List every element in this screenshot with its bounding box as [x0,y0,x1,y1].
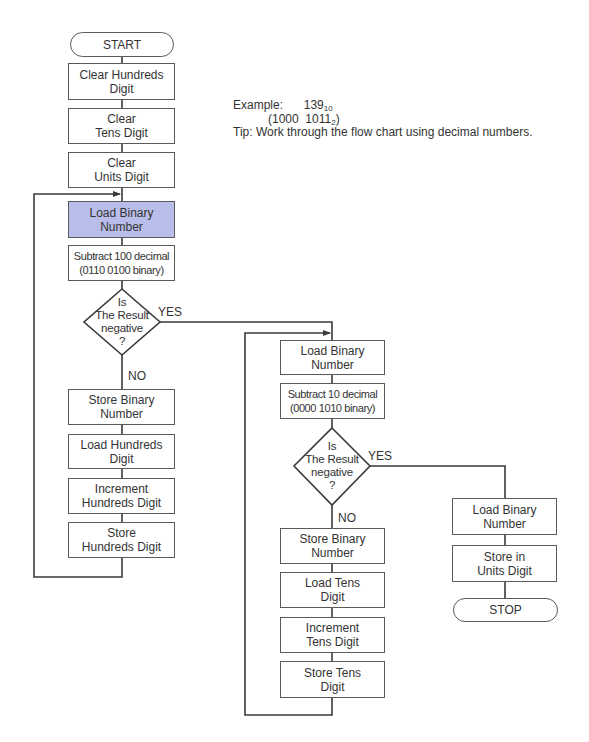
increment-tens-box: Increment Tens Digit [280,617,385,653]
flowchart-canvas: Example: 13910 (1000 10112) Tip: Work th… [0,0,589,742]
load-hundreds-box: Load Hundreds Digit [68,434,175,469]
example-decimal: 139 [304,98,324,112]
subtract-100-box: Subtract 100 decimal (0110 0100 binary) [68,245,175,281]
yes-label-2: YES [368,449,392,463]
clear-hundreds-box: Clear Hundreds Digit [68,63,175,100]
load-binary-box-2: Load Binary Number [280,340,385,375]
load-tens-box: Load Tens Digit [280,572,385,608]
tip-text: Tip: Work through the flow chart using d… [233,125,532,139]
start-terminal: START [70,32,174,57]
clear-units-box: Clear Units Digit [68,152,175,188]
store-binary-box-2: Store Binary Number [280,528,385,564]
store-units-box: Store in Units Digit [452,545,557,582]
decision-hundreds-label: Is The Result negative ? [84,296,160,348]
store-binary-box-1: Store Binary Number [68,389,175,425]
clear-tens-box: Clear Tens Digit [68,108,175,144]
subtract-10-box: Subtract 10 decimal (0000 1010 binary) [280,383,385,419]
store-tens-box: Store Tens Digit [280,661,385,698]
example-line: Example: 13910 [233,98,333,113]
no-label-2: NO [338,511,356,525]
example-binary-close: ) [336,112,340,126]
no-label-1: NO [128,369,146,383]
increment-hundreds-box: Increment Hundreds Digit [68,478,175,514]
decision-tens-label: Is The Result negative ? [294,440,370,492]
load-binary-box-highlighted: Load Binary Number [68,201,175,238]
stop-terminal: STOP [453,598,558,622]
example-binary: (1000 1011 [268,112,331,126]
load-binary-box-3: Load Binary Number [452,498,557,535]
store-hundreds-box: Store Hundreds Digit [68,522,175,558]
yes-label-1: YES [158,305,182,319]
example-label: Example: [233,98,283,112]
